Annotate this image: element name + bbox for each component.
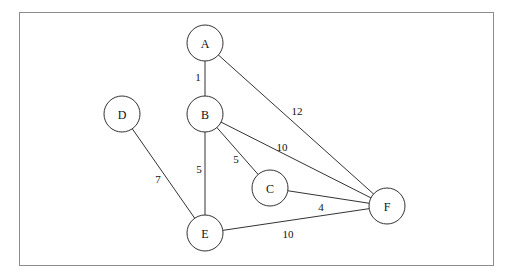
- node-label: C: [266, 182, 274, 196]
- node-label: F: [384, 200, 391, 214]
- node-b: B: [187, 96, 223, 132]
- edge-weight-d-e: 7: [155, 173, 161, 185]
- edge-weight-b-c: 5: [233, 153, 239, 165]
- edge-weight-b-f: 10: [277, 141, 289, 153]
- node-d: D: [104, 96, 140, 132]
- edge-weights-layer: 11210557410: [155, 71, 324, 240]
- diagram-frame: [20, 13, 494, 266]
- node-e: E: [187, 215, 223, 251]
- edge-e-f: [205, 206, 387, 233]
- node-c: C: [252, 170, 288, 206]
- node-f: F: [369, 188, 405, 224]
- edge-weight-e-f: 10: [283, 228, 295, 240]
- node-label: D: [118, 108, 127, 122]
- node-label: B: [201, 108, 209, 122]
- edges-layer: [122, 43, 387, 233]
- edge-weight-a-f: 12: [292, 105, 303, 117]
- node-label: A: [201, 37, 210, 51]
- graph-diagram: 11210557410 ABCDEF: [0, 0, 511, 279]
- edge-weight-a-b: 1: [195, 71, 201, 83]
- edge-weight-b-e: 5: [196, 163, 202, 175]
- node-a: A: [187, 25, 223, 61]
- edge-a-f: [205, 43, 387, 206]
- edge-d-e: [122, 114, 205, 233]
- node-label: E: [201, 227, 208, 241]
- edge-weight-c-f: 4: [318, 201, 324, 213]
- nodes-layer: ABCDEF: [104, 25, 405, 251]
